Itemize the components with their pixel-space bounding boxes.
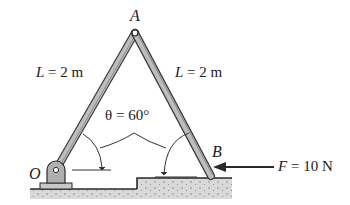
- angle-indicators: [72, 133, 197, 177]
- ground-upper: [137, 178, 232, 199]
- label-right-length: L = 2 m: [175, 65, 222, 80]
- label-O: O: [29, 166, 41, 182]
- label-B: B: [212, 144, 222, 160]
- label-force: F = 10 N: [278, 159, 333, 174]
- label-A: A: [130, 8, 140, 24]
- truss-diagram: A O B L = 2 m L = 2 m θ = 60° F = 10 N: [0, 0, 350, 205]
- pin-A: [132, 30, 138, 36]
- ground-lower: [30, 189, 138, 199]
- diagram-graphics: [0, 0, 350, 205]
- pin-support-O: [40, 161, 72, 189]
- label-left-length: L = 2 m: [36, 65, 83, 80]
- bar-AB: [135, 32, 213, 176]
- label-angle: θ = 60°: [105, 108, 149, 123]
- force-arrow: [213, 162, 274, 172]
- bar-OA: [56, 33, 137, 170]
